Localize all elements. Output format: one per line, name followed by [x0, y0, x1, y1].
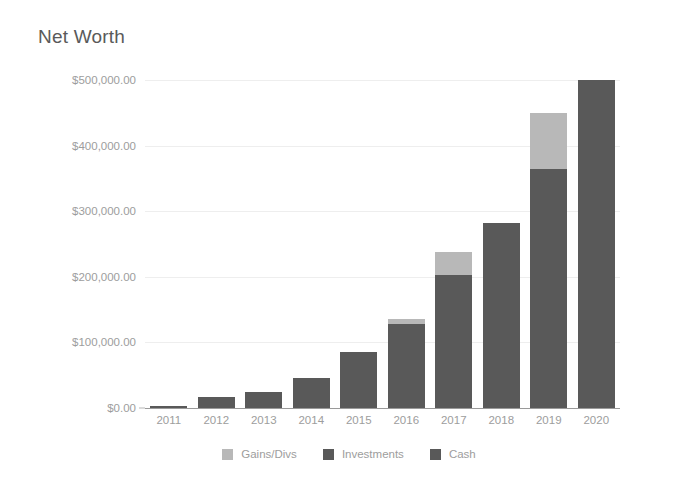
y-tick-label: $200,000.00: [30, 271, 136, 283]
x-tick-label: 2018: [488, 414, 514, 426]
x-tick-label: 2017: [441, 414, 467, 426]
bar-segment-gains[interactable]: [530, 113, 567, 169]
bar-segment-cash[interactable]: [293, 378, 330, 408]
x-axis-baseline: [145, 408, 620, 409]
bar-stack[interactable]: [245, 392, 282, 408]
bar-segment-cash[interactable]: [245, 392, 282, 408]
legend-swatch-icon: [222, 449, 233, 460]
bar-stack[interactable]: [578, 80, 615, 408]
legend-item[interactable]: Gains/Divs: [222, 448, 297, 460]
bar-segment-cash[interactable]: [198, 397, 235, 408]
bar-stack[interactable]: [198, 397, 235, 408]
y-tick-label: $300,000.00: [30, 205, 136, 217]
legend-item[interactable]: Investments: [323, 448, 404, 460]
x-tick-label: 2016: [393, 414, 419, 426]
bar-stack[interactable]: [388, 319, 425, 408]
legend-label: Investments: [342, 448, 404, 460]
y-tick-label: $100,000.00: [30, 336, 136, 348]
x-tick-label: 2011: [156, 414, 181, 426]
bar-segment-gains[interactable]: [435, 252, 472, 275]
bar-stack[interactable]: [150, 406, 187, 408]
bar-segment-cash[interactable]: [483, 223, 520, 408]
bar-stack[interactable]: [293, 378, 330, 408]
x-tick-label: 2019: [536, 414, 562, 426]
net-worth-chart-card: Net Worth $500,000.00$400,000.00$300,000…: [0, 0, 698, 495]
bar-stack[interactable]: [340, 352, 377, 408]
x-tick-label: 2013: [251, 414, 277, 426]
y-tick-label: $500,000.00: [30, 74, 136, 86]
x-tick-label: 2012: [203, 414, 229, 426]
legend-swatch-icon: [430, 449, 441, 460]
bar-segment-cash[interactable]: [578, 80, 615, 408]
x-tick-label: 2020: [583, 414, 609, 426]
legend-label: Cash: [449, 448, 476, 460]
bar-segment-cash[interactable]: [388, 324, 425, 408]
legend-label: Gains/Divs: [241, 448, 297, 460]
x-tick-label: 2014: [298, 414, 324, 426]
legend-item[interactable]: Cash: [430, 448, 476, 460]
chart-plot-area: $500,000.00$400,000.00$300,000.00$200,00…: [0, 0, 698, 495]
bar-segment-cash[interactable]: [150, 406, 187, 408]
y-tick-label: $0.00: [30, 402, 136, 414]
bars-layer: [145, 80, 620, 408]
x-tick-label: 2015: [346, 414, 372, 426]
bar-segment-cash[interactable]: [435, 275, 472, 408]
bar-stack[interactable]: [435, 252, 472, 408]
legend-swatch-icon: [323, 449, 334, 460]
bar-stack[interactable]: [530, 113, 567, 408]
bar-segment-cash[interactable]: [340, 352, 377, 408]
bar-segment-cash[interactable]: [530, 169, 567, 408]
y-tick-label: $400,000.00: [30, 140, 136, 152]
chart-legend: Gains/DivsInvestmentsCash: [0, 448, 698, 460]
bar-stack[interactable]: [483, 223, 520, 408]
